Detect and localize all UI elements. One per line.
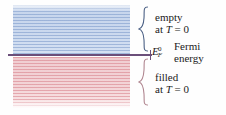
filled-label-prefix: at [155, 83, 166, 95]
empty-label-line2: at T = 0 [155, 24, 189, 36]
fermi-level-tick [150, 50, 151, 60]
empty-band-brace [138, 6, 149, 52]
empty-label-suffix: = 0 [172, 23, 189, 35]
fermi-level-line [8, 54, 152, 56]
brace-lower-icon [138, 58, 149, 106]
empty-states-band [13, 5, 130, 55]
filled-band-label: filled at T = 0 [155, 72, 189, 96]
empty-band-label: empty at T = 0 [155, 12, 189, 36]
fermi-energy-symbol: EF0 [152, 46, 162, 60]
empty-label-prefix: at [155, 23, 166, 35]
fermi-energy-diagram: empty at T = 0 filled at T = 0 EF0 Fermi… [0, 0, 226, 115]
filled-label-line2: at T = 0 [155, 84, 189, 96]
fermi-symbol-superscript: 0 [158, 45, 162, 53]
filled-label-suffix: = 0 [172, 83, 189, 95]
brace-upper-icon [138, 6, 149, 52]
filled-states-band [13, 57, 130, 108]
filled-band-brace [138, 58, 149, 106]
fermi-energy-label: Fermi energy [174, 41, 204, 65]
fermi-energy-line2: energy [174, 53, 204, 65]
